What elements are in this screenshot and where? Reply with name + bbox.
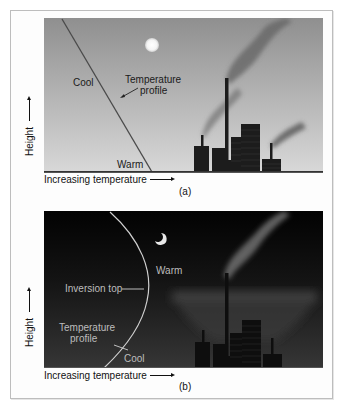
y-axis-label-a: Height [24,99,35,156]
label-profile-line1: Temperature [59,322,115,333]
arrow-right-icon [150,179,172,180]
x-axis-label-a: Increasing temperature [44,174,172,185]
label-profile-line2: profile [140,85,167,96]
label-cool: Cool [124,353,145,364]
temperature-profile-line [62,19,152,172]
arrow-up-icon [29,99,30,121]
x-axis-text: Increasing temperature [44,370,147,381]
label-profile-line2: profile [70,333,97,344]
arrow-right-icon [150,375,172,376]
panel-a-illustration [44,18,323,172]
caption-b: (b) [179,381,191,392]
caption-a: (a) [179,186,191,197]
label-cool: Cool [73,77,94,88]
y-axis-text: Height [24,318,35,347]
sun-icon [145,38,159,52]
arrow-up-icon [29,290,30,312]
moon-icon [155,233,167,245]
label-warm: Warm [117,159,143,170]
x-axis-label-b: Increasing temperature [44,370,172,381]
label-warm: Warm [156,265,182,276]
panel-b-nighttime: Warm Inversion top Temperature profile C… [44,211,323,368]
panel-a-daytime: Cool Temperature profile Warm [44,18,323,173]
label-profile-line1: Temperature [125,74,181,85]
smoke-plume-upper [224,211,290,279]
x-axis-text: Increasing temperature [44,174,147,185]
y-axis-text: Height [24,127,35,156]
y-axis-label-b: Height [24,290,35,347]
label-inversion-top: Inversion top [65,283,122,294]
